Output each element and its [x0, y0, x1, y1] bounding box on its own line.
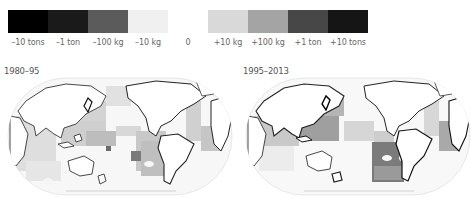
legend-swatch-minus-100-kg	[88, 10, 128, 33]
legend-label: +10 tons	[330, 38, 366, 47]
legend-swatch-plus-10-tons	[328, 10, 368, 33]
world-map-1980-95	[6, 76, 234, 198]
map-title-1980-95: 1980–95	[4, 66, 39, 76]
legend-label: –10 kg	[135, 38, 161, 47]
legend-label: –100 kg	[93, 38, 124, 47]
legend-swatch-plus-100-kg	[248, 10, 288, 33]
legend-label: –1 ton	[56, 38, 80, 47]
legend-label: +1 ton	[295, 38, 322, 47]
legend-swatch-minus-10-kg	[128, 10, 168, 33]
legend-swatch-minus-1-ton	[48, 10, 88, 33]
legend-zero-label: 0	[186, 38, 191, 47]
legend: –10 tons –1 ton –100 kg –10 kg 0 +10 kg …	[0, 0, 471, 55]
map-title-1995-2013: 1995–2013	[243, 66, 289, 76]
legend-swatch-plus-10-kg	[208, 10, 248, 33]
legend-label: +10 kg	[214, 38, 243, 47]
legend-swatch-minus-10-tons	[8, 10, 48, 33]
legend-label: –10 tons	[11, 38, 44, 47]
world-map-1995-2013	[244, 76, 471, 198]
legend-label: +100 kg	[251, 38, 285, 47]
legend-swatch-plus-1-ton	[288, 10, 328, 33]
